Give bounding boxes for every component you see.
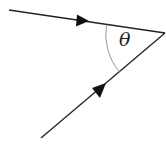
angle-arc xyxy=(106,25,120,73)
diagram-canvas xyxy=(0,0,166,147)
bottom-ray-arrow-icon xyxy=(92,83,106,98)
angle-diagram: θ xyxy=(0,0,166,147)
top-ray-arrow-icon xyxy=(76,15,89,27)
angle-theta-label: θ xyxy=(119,30,130,49)
